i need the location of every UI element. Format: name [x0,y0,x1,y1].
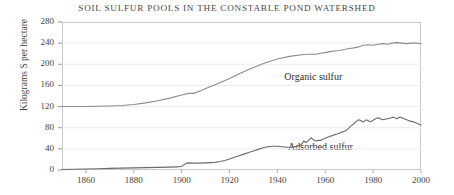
x-tick-label: 1900 [162,175,202,185]
y-tick-label: 240 [14,37,54,47]
x-tick-label: 2000 [401,175,441,185]
chart-title: SOIL SULFUR POOLS IN THE CONSTABLE POND … [0,3,454,13]
y-tick-label: 40 [14,143,54,153]
plot-area [62,22,421,170]
y-tick-label: 120 [14,101,54,111]
x-tick-label: 1940 [257,175,297,185]
x-tick-label: 1880 [114,175,154,185]
series-annotation-label: Organic sulfur [284,71,342,82]
y-tick-label: 280 [14,16,54,26]
x-tick-label: 1860 [66,175,106,185]
x-tick-label: 1960 [305,175,345,185]
y-tick-label: 80 [14,122,54,132]
chart-container: SOIL SULFUR POOLS IN THE CONSTABLE POND … [0,0,454,195]
x-tick-label: 1980 [353,175,393,185]
y-tick-label: 200 [14,58,54,68]
y-tick-label: 160 [14,79,54,89]
y-tick-label: 0 [14,164,54,174]
series-annotation-label: Adsorbed sulfur [288,141,353,152]
x-tick-label: 1920 [210,175,250,185]
